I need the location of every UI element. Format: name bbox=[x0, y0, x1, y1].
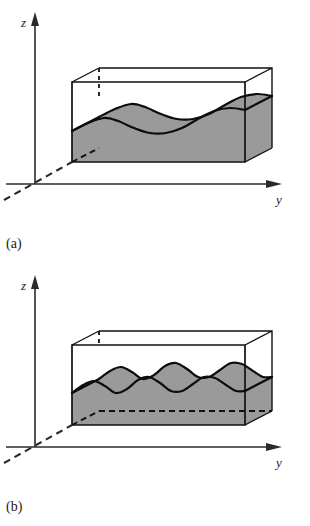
x-axis-dashed-a bbox=[4, 162, 72, 200]
z-axis-label-b: z bbox=[20, 278, 26, 293]
caption-a: (a) bbox=[6, 236, 22, 252]
z-axis-arrowhead-a bbox=[31, 12, 39, 26]
y-axis-label-b: y bbox=[274, 455, 282, 470]
z-axis-label-a: z bbox=[20, 15, 26, 30]
y-axis-arrowhead-b bbox=[266, 443, 282, 451]
z-axis-arrowhead-b bbox=[31, 275, 39, 289]
caption-b: (b) bbox=[6, 499, 23, 515]
figure-panel-b: z y (b) bbox=[0, 263, 310, 526]
y-axis-label-a: y bbox=[274, 192, 282, 207]
figure-panel-a: z y (a) bbox=[0, 0, 310, 263]
panel-a-drawing: z y (a) bbox=[0, 0, 310, 263]
shaded-region-front-b bbox=[72, 377, 245, 425]
y-axis-arrowhead-a bbox=[266, 180, 282, 188]
x-axis-dashed-b bbox=[4, 425, 72, 463]
panel-b-drawing: z y (b) bbox=[0, 263, 310, 526]
